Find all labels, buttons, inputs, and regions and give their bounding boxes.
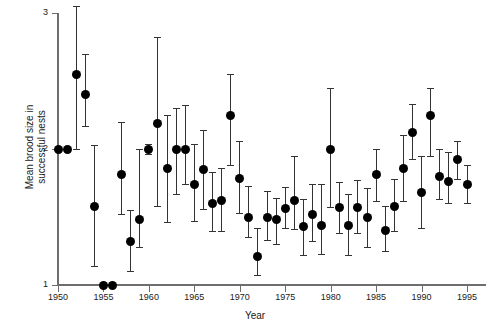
x-tick-label: 1965 [174,292,214,302]
error-bar-cap-upper [345,194,352,195]
error-bar-cap-upper [127,210,134,211]
data-point-marker [144,145,153,154]
y-tick-label: 3 [26,7,48,17]
x-tick-label: 1975 [265,292,305,302]
error-bar-cap-lower [136,247,143,248]
data-point-marker [281,204,290,213]
error-bar-cap-upper [327,88,334,89]
error-bar-cap-lower [73,149,80,150]
data-point-marker [272,215,281,224]
error-bar-cap-upper [436,149,443,150]
data-point-marker [208,199,217,208]
y-tick-label: 1 [26,279,48,289]
error-bar-cap-upper [354,180,361,181]
error-bar-cap-lower [227,165,234,166]
x-axis-title: Year [210,310,300,321]
error-bar-cap-lower [245,237,252,238]
error-bar-cap-upper [373,149,380,150]
error-bar-cap-lower [364,247,371,248]
data-point-marker [417,188,426,197]
data-point-marker [290,196,299,205]
error-bar-cap-lower [91,266,98,267]
data-point-marker [172,145,181,154]
y-tick-mark [52,285,57,286]
error-bar-cap-upper [182,105,189,106]
y-tick-mark [52,13,57,14]
error-bar-cap-upper [336,182,343,183]
error-bar-cap-upper [300,199,307,200]
data-point-marker [190,180,199,189]
error-bar-cap-lower [373,201,380,202]
error-bar-cap-lower [427,156,434,157]
data-point-marker [63,145,72,154]
error-bar-cap-lower [336,233,343,234]
data-point-marker [444,177,453,186]
error-bar [230,74,231,165]
data-point-marker [390,202,399,211]
data-point-marker [344,221,353,230]
data-point-marker [435,172,444,181]
error-bar-cap-upper [309,184,316,185]
error-bar-cap-lower [391,231,398,232]
data-point-marker [126,237,135,246]
x-tick-label: 1950 [38,292,78,302]
data-point-marker [244,213,253,222]
x-tick-label: 1985 [356,292,396,302]
y-axis-title: Mean brood size in successful nests [24,47,48,247]
error-bar-cap-lower [464,203,471,204]
error-bar-cap-lower [200,209,207,210]
error-bar-cap-upper [454,141,461,142]
data-point-marker [217,196,226,205]
error-bar-cap-lower [445,203,452,204]
error-bar-cap-lower [154,206,161,207]
error-bar-cap-upper [409,104,416,105]
error-bar-cap-upper [464,165,471,166]
error-bar-cap-upper [218,168,225,169]
error-bar-cap-lower [318,254,325,255]
error-bar-cap-upper [273,198,280,199]
error-bar-cap-upper [445,152,452,153]
data-point-marker [408,128,417,137]
error-bar-cap-upper [382,206,389,207]
error-bar-cap-upper [264,191,271,192]
x-tick-label: 1960 [129,292,169,302]
error-bar-cap-upper [82,54,89,55]
error-bar-cap-upper [164,115,171,116]
data-point-marker [226,111,235,120]
error-bar-cap-lower [145,154,152,155]
error-bar-cap-upper [427,88,434,89]
error-bar-cap-lower [436,199,443,200]
error-bar [248,186,249,238]
error-bar-cap-lower [327,207,334,208]
error-bar-cap-upper [118,122,125,123]
error-bar-cap-lower [182,184,189,185]
error-bar-cap-lower [454,179,461,180]
x-tick-label: 1970 [220,292,260,302]
data-point-marker [299,222,308,231]
error-bar-cap-upper [200,130,207,131]
error-bar-cap-lower [382,251,389,252]
chart-figure: 123 195019551960196519701975198019851990… [0,0,501,330]
error-bar [139,149,140,247]
data-point-marker [308,210,317,219]
error-bar-cap-lower [282,228,289,229]
error-bar-cap-upper [318,184,325,185]
error-bar-cap-lower [300,255,307,256]
data-point-marker [253,252,262,261]
error-bar-cap-lower [127,271,134,272]
data-point-marker [99,281,108,290]
error-bar-cap-upper [209,172,216,173]
error-bar-cap-upper [282,187,289,188]
error-bar-cap-lower [291,229,298,230]
error-bar-cap-upper [73,6,80,7]
error-bar-cap-upper [91,145,98,146]
error-bar-cap-upper [236,141,243,142]
data-point-marker [135,215,144,224]
data-point-marker [372,170,381,179]
error-bar-cap-upper [400,135,407,136]
error-bar-cap-lower [400,201,407,202]
data-point-marker [235,174,244,183]
error-bar [321,184,322,253]
error-bar-cap-upper [418,156,425,157]
error-bar-cap-upper [254,228,261,229]
